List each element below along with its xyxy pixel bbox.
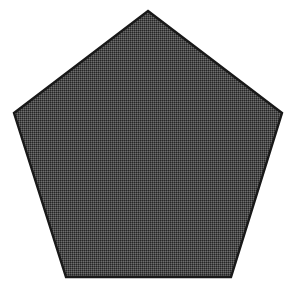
image-canvas (0, 0, 295, 297)
pentagon-figure (0, 0, 295, 297)
